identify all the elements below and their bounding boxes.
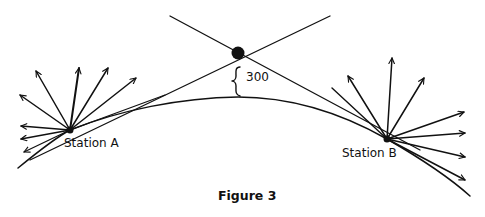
sight-line-a-extra <box>70 95 165 130</box>
station-a-label: Station A <box>64 136 119 150</box>
arrow-a-5 <box>70 78 136 130</box>
arrow-a-3 <box>70 68 79 130</box>
figure-caption: Figure 3 <box>218 188 276 203</box>
arrow-b-4 <box>387 78 424 139</box>
intersection-dot <box>232 47 245 60</box>
arrow-a-6 <box>21 126 70 130</box>
station-a-dot <box>67 127 74 134</box>
arrow-a-4 <box>70 68 108 130</box>
arrow-a-2 <box>36 71 70 130</box>
arrow-b-8 <box>387 139 465 180</box>
station-b-label: Station B <box>342 146 397 160</box>
arrow-b-3 <box>387 58 392 139</box>
station-b-arrows <box>332 58 465 180</box>
sight-line-from-a <box>170 16 420 150</box>
station-b-dot <box>384 136 391 143</box>
arrow-b-6 <box>387 133 465 139</box>
height-label: 300 <box>246 70 269 84</box>
diagram-canvas <box>0 0 485 217</box>
arrow-a-1 <box>20 95 70 130</box>
height-brace <box>232 67 240 96</box>
arrow-b-7 <box>387 139 465 157</box>
arrow-b-5 <box>387 112 464 139</box>
